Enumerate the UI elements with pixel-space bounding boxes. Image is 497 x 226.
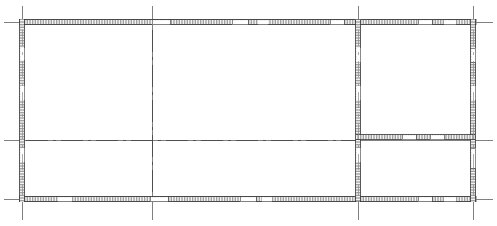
opening-north-5 [418,20,432,24]
wall-east [471,19,476,202]
opening-interior-h-2 [430,135,444,139]
opening-north-3 [258,20,268,24]
wall-west [20,19,25,202]
opening-interior-h-1 [402,135,416,139]
room-right-lower[interactable] [361,140,470,196]
opening-south-6 [444,197,456,201]
floor-plan-canvas [0,0,497,226]
opening-north-2 [232,20,248,24]
opening-south-1 [58,197,72,201]
opening-south-2 [150,197,168,201]
room-regions [25,25,470,196]
opening-north-1 [152,20,170,24]
floor-plan-drawing [0,0,497,226]
room-left[interactable] [25,25,355,196]
opening-south-5 [418,197,432,201]
opening-south-4 [262,197,272,201]
opening-north-4 [330,20,344,24]
room-right-upper[interactable] [361,25,470,134]
opening-south-3 [240,197,256,201]
wall-partition-vertical [356,20,361,202]
opening-north-6 [444,20,456,24]
